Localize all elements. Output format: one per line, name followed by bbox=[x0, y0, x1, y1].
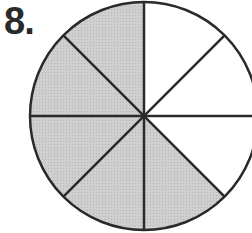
fraction-circle bbox=[0, 0, 252, 233]
